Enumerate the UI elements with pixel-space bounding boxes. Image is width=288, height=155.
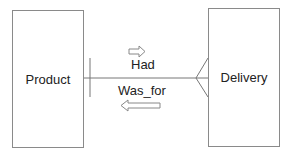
relationship-label-forward: Had — [131, 57, 155, 72]
entity-label: Delivery — [221, 70, 268, 85]
arrow-right-icon — [129, 46, 145, 57]
entity-delivery[interactable]: Delivery — [208, 8, 280, 147]
entity-product[interactable]: Product — [12, 10, 84, 148]
relationship-label-reverse: Was_for — [118, 83, 166, 98]
arrow-left-icon — [121, 100, 160, 111]
entity-label: Product — [26, 72, 71, 87]
